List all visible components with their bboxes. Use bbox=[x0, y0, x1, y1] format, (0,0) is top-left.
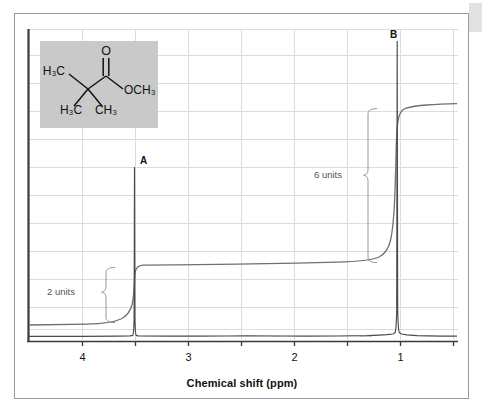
integral-label-a: 2 units bbox=[47, 286, 75, 297]
structure-bonds bbox=[69, 58, 123, 106]
integration-curve bbox=[29, 104, 457, 325]
x-tick-label-3: 3 bbox=[179, 351, 199, 363]
integral-bracket-a bbox=[102, 267, 115, 322]
x-tick-label-2: 2 bbox=[285, 351, 305, 363]
nmr-spectrum-figure: 4 3 2 1 A B 2 units 6 units Chemical shi… bbox=[0, 0, 484, 418]
label-methyl-left-top: H₃C bbox=[43, 64, 66, 78]
peak-label-b: B bbox=[390, 29, 397, 40]
x-tick-label-1: 1 bbox=[391, 351, 411, 363]
x-axis-ticks bbox=[83, 342, 454, 346]
integral-label-b: 6 units bbox=[314, 169, 342, 180]
x-tick-label-4: 4 bbox=[73, 351, 93, 363]
molecular-structure-inset: O H₃C H₃C CH₃ OCH₃ bbox=[40, 41, 158, 128]
label-carbonyl-oxygen: O bbox=[101, 44, 111, 58]
label-methyl-left-bottom: H₃C bbox=[60, 103, 83, 117]
integral-bracket-b bbox=[364, 109, 377, 263]
label-methyl-center-bottom: CH₃ bbox=[95, 103, 117, 117]
methyl-pivalate-structure-svg: O H₃C H₃C CH₃ OCH₃ bbox=[40, 41, 158, 128]
x-axis-title: Chemical shift (ppm) bbox=[0, 377, 484, 389]
corner-artifact bbox=[469, 3, 482, 32]
label-ester-methoxy: OCH₃ bbox=[124, 83, 156, 97]
peak-label-a: A bbox=[140, 155, 147, 166]
